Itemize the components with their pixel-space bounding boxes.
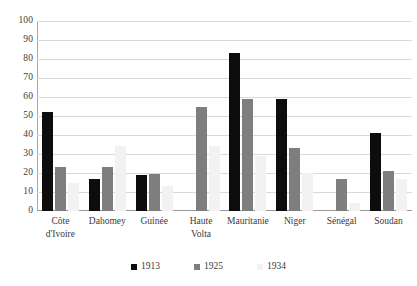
bar-slot <box>396 21 407 211</box>
bar-slot <box>349 21 360 211</box>
x-axis-tick-label: Côted'Ivoire <box>37 215 84 255</box>
legend-swatch-icon <box>257 264 263 270</box>
bar-slot <box>370 21 381 211</box>
bar-1925 <box>383 171 394 211</box>
bar-slot <box>255 21 266 211</box>
x-axis-tick-label-line: Haute <box>178 215 225 228</box>
bar-slot <box>336 21 347 211</box>
bar-1925 <box>196 107 207 212</box>
y-axis-tick-label: 50 <box>3 111 33 121</box>
bar-slot <box>42 21 53 211</box>
chart-legend: 191319251934 <box>0 262 417 272</box>
legend-label: 1925 <box>204 262 223 272</box>
bar-group <box>84 21 131 211</box>
x-axis-tick-label-line: Sénégal <box>318 215 365 228</box>
bar-group <box>271 21 318 211</box>
x-axis-tick-label-line: Dahomey <box>84 215 131 228</box>
bar-1913 <box>229 53 240 211</box>
bar-slot <box>68 21 79 211</box>
legend-swatch-icon <box>194 264 200 270</box>
bar-slot <box>229 21 240 211</box>
x-axis-tick-label: HauteVolta <box>178 215 225 255</box>
bar-slot <box>289 21 300 211</box>
x-axis-tick-label-line: Niger <box>271 215 318 228</box>
bar-groups <box>37 21 412 211</box>
bar-1925 <box>102 167 113 211</box>
bar-slot <box>242 21 253 211</box>
bar-1925 <box>55 167 66 211</box>
bar-1913 <box>276 99 287 211</box>
y-axis-tick-label: 70 <box>3 73 33 83</box>
bar-1925 <box>149 174 160 211</box>
bar-slot <box>55 21 66 211</box>
bar-slot <box>383 21 394 211</box>
bar-slot <box>162 21 173 211</box>
y-axis-tick-label: 30 <box>3 149 33 159</box>
plot-area <box>37 21 412 211</box>
bar-slot <box>136 21 147 211</box>
x-axis-tick-label-line: d'Ivoire <box>37 228 84 241</box>
bar-slot <box>115 21 126 211</box>
bar-1934 <box>255 156 266 211</box>
bar-group <box>178 21 225 211</box>
x-axis-tick-label: Mauritanie <box>225 215 272 255</box>
bar-1934 <box>68 183 79 212</box>
legend-item[interactable]: 1925 <box>194 262 223 272</box>
bar-slot <box>209 21 220 211</box>
bar-1934 <box>209 146 220 211</box>
x-axis-tick-label-line: Côte <box>37 215 84 228</box>
y-axis-tick-labels: 1009080706050403020100 <box>0 21 33 211</box>
y-axis-tick-label: 40 <box>3 130 33 140</box>
x-axis-tick-label-line: Guinée <box>131 215 178 228</box>
bar-1913 <box>89 179 100 211</box>
x-axis-tick-label: Sénégal <box>318 215 365 255</box>
bar-group <box>37 21 84 211</box>
x-axis-tick-label-line: Soudan <box>365 215 412 228</box>
bar-group <box>225 21 272 211</box>
bar-chart: 1009080706050403020100 Côted'IvoireDahom… <box>0 0 417 286</box>
legend-item[interactable]: 1913 <box>131 262 160 272</box>
bar-1913 <box>42 112 53 211</box>
bar-slot <box>323 21 334 211</box>
legend-swatch-icon <box>131 264 137 270</box>
legend-label: 1913 <box>141 262 160 272</box>
bar-1934 <box>396 179 407 211</box>
bar-1934 <box>115 146 126 211</box>
bar-slot <box>183 21 194 211</box>
y-axis-tick-label: 10 <box>3 187 33 197</box>
bar-1925 <box>242 99 253 211</box>
bar-1934 <box>302 173 313 211</box>
y-axis-tick-label: 60 <box>3 92 33 102</box>
bar-1913 <box>136 175 147 211</box>
x-axis-tick-label-line: Mauritanie <box>225 215 272 228</box>
y-axis-tick-label: 80 <box>3 54 33 64</box>
y-axis-tick-label: 20 <box>3 168 33 178</box>
bar-slot <box>276 21 287 211</box>
bar-1925 <box>336 179 347 211</box>
y-axis-tick-label: 0 <box>3 206 33 216</box>
bar-slot <box>196 21 207 211</box>
bar-group <box>131 21 178 211</box>
bar-group <box>318 21 365 211</box>
bar-1913 <box>370 133 381 211</box>
x-axis-category-labels: Côted'IvoireDahomeyGuinéeHauteVoltaMauri… <box>37 215 412 255</box>
bar-slot <box>302 21 313 211</box>
bar-1925 <box>289 148 300 211</box>
bar-1934 <box>349 203 360 211</box>
bar-group <box>365 21 412 211</box>
x-axis-tick-label: Guinée <box>131 215 178 255</box>
x-axis-tick-label: Dahomey <box>84 215 131 255</box>
x-axis-tick-label: Niger <box>271 215 318 255</box>
x-axis-tick-label-line: Volta <box>178 228 225 241</box>
bar-slot <box>89 21 100 211</box>
bar-slot <box>149 21 160 211</box>
bar-1934 <box>162 186 173 211</box>
x-axis-tick-label: Soudan <box>365 215 412 255</box>
y-axis-tick-label: 90 <box>3 35 33 45</box>
bar-slot <box>102 21 113 211</box>
legend-item[interactable]: 1934 <box>257 262 286 272</box>
legend-label: 1934 <box>267 262 286 272</box>
y-axis-tick-label: 100 <box>3 16 33 26</box>
